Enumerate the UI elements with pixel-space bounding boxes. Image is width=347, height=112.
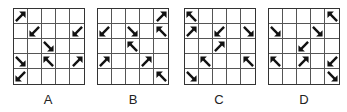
grid-cell — [56, 39, 70, 54]
grid-cell — [269, 24, 283, 39]
arrow-southeast-icon — [270, 26, 281, 37]
arrow-southwest-icon — [15, 71, 26, 82]
grid-cell — [154, 54, 168, 69]
grid-cell — [283, 9, 297, 24]
grid-cell — [14, 9, 28, 24]
grid-cell — [112, 54, 126, 69]
grid-cell — [241, 9, 255, 24]
grid-cell — [154, 69, 168, 84]
grid-cell — [42, 54, 56, 69]
grid-cell — [297, 54, 311, 69]
grid-cell — [140, 69, 154, 84]
arrow-northwest-icon — [327, 11, 338, 22]
grid-cell — [14, 39, 28, 54]
grid-cell — [199, 24, 213, 39]
arrow-southeast-icon — [43, 41, 54, 52]
grid-cell — [213, 69, 227, 84]
grid-cell — [70, 24, 84, 39]
arrow-northwest-icon — [43, 56, 54, 67]
grid-cell — [140, 54, 154, 69]
label-b: B — [97, 92, 169, 107]
grid-cell — [227, 24, 241, 39]
grid-cell — [154, 39, 168, 54]
grid-cell — [56, 9, 70, 24]
grid-cell — [325, 69, 339, 84]
panel-d — [268, 8, 340, 85]
arrow-southwest-icon — [29, 26, 40, 37]
grid-cell — [241, 69, 255, 84]
grid-cell — [311, 69, 325, 84]
grid-cell — [112, 69, 126, 84]
grid-cell — [311, 9, 325, 24]
label-c: C — [183, 92, 255, 107]
grid-cell — [325, 9, 339, 24]
grid-cell — [297, 69, 311, 84]
grid-cell — [70, 39, 84, 54]
grid-cell — [154, 24, 168, 39]
grid-cell — [98, 24, 112, 39]
grid-cell — [126, 9, 140, 24]
grid-cell — [185, 39, 199, 54]
grid-cell — [283, 39, 297, 54]
grid-cell — [42, 39, 56, 54]
arrow-northeast-icon — [156, 11, 167, 22]
grid-cell — [325, 39, 339, 54]
arrow-grid-d — [268, 8, 340, 85]
grid-cell — [311, 24, 325, 39]
grid-cell — [126, 54, 140, 69]
grid-cell — [112, 39, 126, 54]
grid-cell — [140, 39, 154, 54]
arrow-grid-c — [184, 8, 256, 85]
arrow-southwest-icon — [99, 26, 110, 37]
arrow-southwest-icon — [72, 26, 83, 37]
arrow-northwest-icon — [243, 56, 254, 67]
grid-cell — [112, 9, 126, 24]
grid-cell — [283, 69, 297, 84]
grid-cell — [297, 39, 311, 54]
grid-cell — [42, 69, 56, 84]
grid-cell — [269, 69, 283, 84]
arrow-northwest-icon — [200, 56, 211, 67]
grid-cell — [56, 54, 70, 69]
arrow-southwest-icon — [214, 26, 225, 37]
arrow-southeast-icon — [312, 26, 323, 37]
grid-cell — [185, 69, 199, 84]
arrow-southwest-icon — [298, 41, 309, 52]
arrow-northeast-icon — [214, 41, 225, 52]
grid-cell — [241, 24, 255, 39]
grid-cell — [14, 69, 28, 84]
grid-cell — [227, 9, 241, 24]
grid-cell — [269, 54, 283, 69]
grid-cell — [112, 24, 126, 39]
grid-cell — [185, 24, 199, 39]
grid-cell — [241, 39, 255, 54]
grid-cell — [140, 24, 154, 39]
grid-cell — [126, 24, 140, 39]
arrow-southeast-icon — [243, 26, 254, 37]
grid-cell — [42, 9, 56, 24]
grid-cell — [199, 54, 213, 69]
grid-cell — [269, 9, 283, 24]
grid-cell — [283, 24, 297, 39]
arrow-northeast-icon — [141, 56, 152, 67]
grid-cell — [14, 24, 28, 39]
grid-cell — [297, 24, 311, 39]
grid-cell — [126, 39, 140, 54]
arrow-grid-a — [13, 8, 85, 85]
grid-cell — [269, 39, 283, 54]
grid-cell — [14, 54, 28, 69]
grid-cell — [98, 39, 112, 54]
arrow-southeast-icon — [186, 71, 197, 82]
grid-cell — [42, 24, 56, 39]
grid-cell — [98, 54, 112, 69]
grid-cell — [28, 39, 42, 54]
grid-cell — [283, 54, 297, 69]
grid-cell — [311, 54, 325, 69]
arrow-northeast-icon — [298, 56, 309, 67]
grid-cell — [199, 69, 213, 84]
panel-c — [184, 8, 256, 85]
grid-cell — [241, 54, 255, 69]
arrow-southeast-icon — [327, 71, 338, 82]
grid-cell — [126, 69, 140, 84]
arrow-northwest-icon — [186, 11, 197, 22]
